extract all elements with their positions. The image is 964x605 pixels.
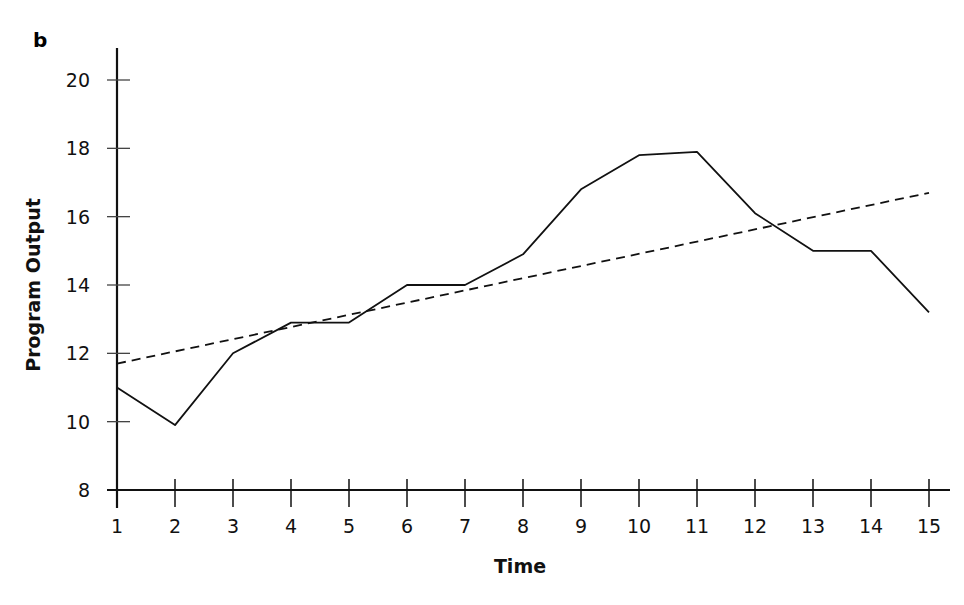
x-axis: 123456789101112131415 [107, 479, 950, 537]
x-tick-label: 15 [917, 515, 941, 537]
y-tick-label: 14 [66, 274, 90, 296]
panel-label: b [33, 28, 47, 52]
y-tick-label: 10 [66, 411, 90, 433]
x-axis-title: Time [494, 555, 546, 577]
x-tick-label: 5 [343, 515, 355, 537]
line-chart: b 8101214161820 123456789101112131415 Pr… [0, 0, 964, 605]
x-tick-label: 14 [859, 515, 883, 537]
x-tick-label: 10 [627, 515, 651, 537]
y-axis: 8101214161820 [66, 48, 130, 508]
x-tick-label: 3 [227, 515, 239, 537]
x-tick-label: 2 [169, 515, 181, 537]
series-layer [117, 152, 929, 425]
trend-line [117, 193, 929, 364]
x-tick-label: 11 [685, 515, 709, 537]
x-tick-label: 13 [801, 515, 825, 537]
x-tick-label: 12 [743, 515, 767, 537]
x-tick-label: 9 [575, 515, 587, 537]
y-tick-label: 16 [66, 206, 90, 228]
program-output-line [117, 152, 929, 425]
y-tick-label: 20 [66, 69, 90, 91]
y-tick-label: 18 [66, 137, 90, 159]
x-tick-label: 6 [401, 515, 413, 537]
y-tick-label: 12 [66, 342, 90, 364]
x-tick-label: 8 [517, 515, 529, 537]
y-axis-title: Program Output [22, 198, 44, 372]
x-tick-label: 1 [111, 515, 123, 537]
x-tick-label: 7 [459, 515, 471, 537]
x-tick-label: 4 [285, 515, 297, 537]
y-tick-label: 8 [78, 479, 90, 501]
